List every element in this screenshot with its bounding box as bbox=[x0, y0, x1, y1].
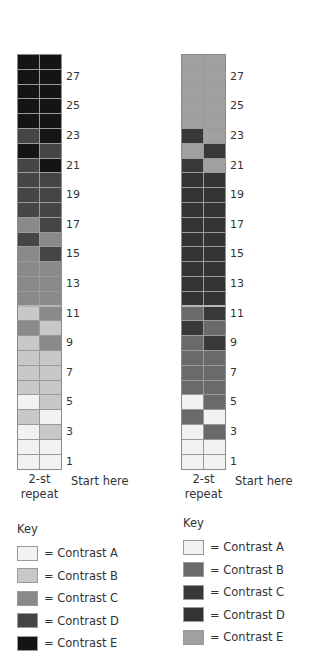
chart-cell bbox=[18, 455, 39, 470]
chart-row-8 bbox=[182, 351, 225, 366]
chart-row-12 bbox=[182, 292, 225, 307]
chart-cell bbox=[18, 218, 39, 232]
chart-cell bbox=[203, 159, 225, 173]
chart-row-11 bbox=[182, 307, 225, 322]
chart-row-12 bbox=[18, 292, 61, 307]
chart-row-6 bbox=[18, 381, 61, 396]
chart-cell bbox=[182, 277, 203, 291]
row-number-label: 27 bbox=[66, 70, 80, 84]
chart-cell bbox=[39, 247, 61, 261]
chart-row-28 bbox=[18, 55, 61, 70]
chart-row-22 bbox=[18, 144, 61, 159]
chart-cell bbox=[39, 159, 61, 173]
chart-cell bbox=[203, 218, 225, 232]
row-number-label: 7 bbox=[66, 366, 73, 380]
row-number-label: 19 bbox=[230, 188, 244, 202]
row-number-label: 7 bbox=[230, 366, 237, 380]
chart-cell bbox=[39, 203, 61, 217]
row-number-label: 25 bbox=[66, 99, 80, 113]
chart-cell bbox=[39, 292, 61, 305]
color-swatch-icon bbox=[17, 568, 38, 583]
chart-cell bbox=[203, 114, 225, 128]
chart-row-28 bbox=[182, 55, 225, 70]
chart-cell bbox=[182, 55, 203, 69]
chart-row-1 bbox=[182, 455, 225, 470]
right-start-here-label: Start here bbox=[235, 474, 293, 488]
row-number-label: 1 bbox=[230, 455, 237, 469]
right-repeat-caption: 2-st repeat bbox=[181, 472, 226, 502]
chart-cell bbox=[18, 203, 39, 217]
key-item-contrast-a: = Contrast A bbox=[17, 542, 119, 565]
chart-cell bbox=[203, 440, 225, 454]
chart-cell bbox=[39, 70, 61, 84]
chart-cell bbox=[39, 307, 61, 321]
chart-row-26 bbox=[18, 85, 61, 100]
row-number-label: 17 bbox=[230, 218, 244, 232]
key-item-label: = Contrast E bbox=[210, 630, 283, 644]
chart-cell bbox=[182, 292, 203, 305]
row-number-label: 27 bbox=[230, 70, 244, 84]
chart-cell bbox=[39, 144, 61, 158]
key-item-contrast-e: = Contrast E bbox=[183, 626, 285, 649]
chart-cell bbox=[182, 233, 203, 247]
chart-cell bbox=[18, 336, 39, 350]
chart-cell bbox=[39, 381, 61, 395]
chart-cell bbox=[182, 70, 203, 84]
key-item-label: = Contrast B bbox=[210, 563, 284, 577]
chart-row-13 bbox=[182, 277, 225, 292]
chart-cell bbox=[18, 366, 39, 380]
row-number-label: 11 bbox=[230, 307, 244, 321]
key-item-label: = Contrast C bbox=[44, 591, 118, 605]
chart-cell bbox=[182, 114, 203, 128]
color-swatch-icon bbox=[17, 613, 38, 628]
chart-row-23 bbox=[182, 129, 225, 144]
chart-cell bbox=[182, 188, 203, 202]
row-number-label: 3 bbox=[66, 425, 73, 439]
chart-cell bbox=[203, 425, 225, 439]
chart-cell bbox=[182, 218, 203, 232]
chart-row-14 bbox=[182, 262, 225, 277]
row-number-label: 21 bbox=[230, 159, 244, 173]
chart-row-25 bbox=[182, 99, 225, 114]
chart-row-20 bbox=[18, 173, 61, 188]
chart-cell bbox=[203, 173, 225, 187]
chart-cell bbox=[182, 129, 203, 143]
chart-cell bbox=[182, 203, 203, 217]
chart-cell bbox=[18, 233, 39, 247]
chart-row-5 bbox=[182, 395, 225, 410]
chart-cell bbox=[203, 99, 225, 113]
chart-cell bbox=[203, 292, 225, 305]
row-number-label: 23 bbox=[66, 129, 80, 143]
left-key-title: Key bbox=[17, 522, 119, 536]
chart-cell bbox=[203, 247, 225, 261]
key-item-contrast-b: = Contrast B bbox=[183, 559, 285, 582]
chart-cell bbox=[182, 247, 203, 261]
chart-cell bbox=[182, 366, 203, 380]
chart-row-5 bbox=[18, 395, 61, 410]
chart-row-4 bbox=[18, 410, 61, 425]
chart-cell bbox=[39, 366, 61, 380]
key-item-label: = Contrast D bbox=[210, 608, 285, 622]
chart-row-18 bbox=[18, 203, 61, 218]
color-swatch-icon bbox=[183, 562, 204, 577]
chart-cell bbox=[18, 277, 39, 291]
chart-cell bbox=[18, 410, 39, 424]
chart-cell bbox=[18, 114, 39, 128]
chart-cell bbox=[39, 321, 61, 335]
color-swatch-icon bbox=[17, 591, 38, 606]
chart-cell bbox=[18, 321, 39, 335]
color-swatch-icon bbox=[17, 636, 38, 651]
left-repeat-line1: 2-st bbox=[17, 472, 62, 487]
chart-row-3 bbox=[182, 425, 225, 440]
chart-cell bbox=[39, 395, 61, 409]
chart-cell bbox=[39, 455, 61, 470]
chart-cell bbox=[182, 85, 203, 99]
row-number-label: 17 bbox=[66, 218, 80, 232]
chart-cell bbox=[18, 425, 39, 439]
row-number-label: 9 bbox=[66, 336, 73, 350]
chart-cell bbox=[39, 129, 61, 143]
right-repeat-line2: repeat bbox=[181, 487, 226, 502]
chart-cell bbox=[182, 440, 203, 454]
chart-cell bbox=[182, 173, 203, 187]
chart-cell bbox=[39, 336, 61, 350]
